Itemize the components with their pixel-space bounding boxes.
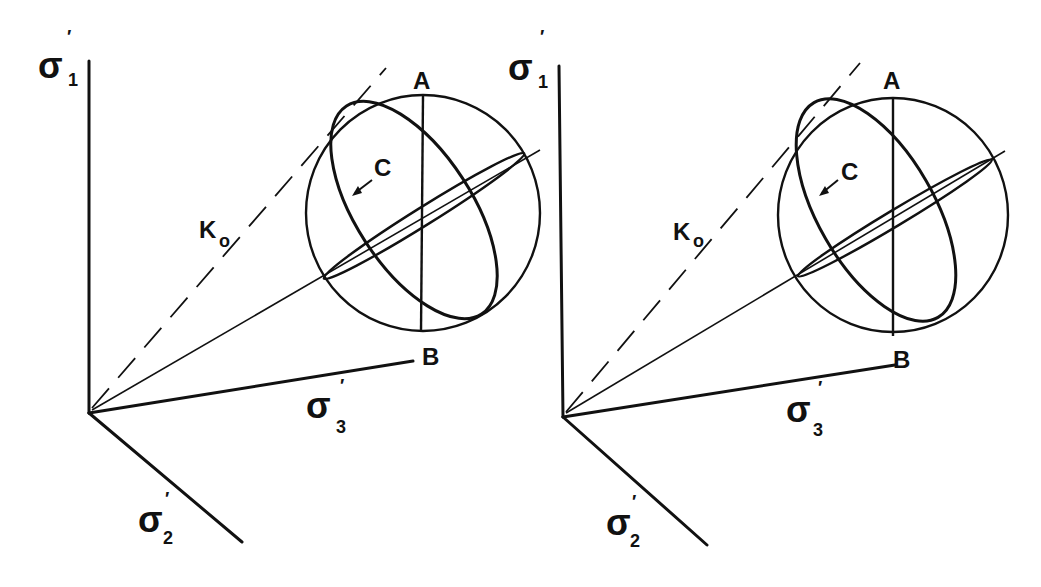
point-a-label-right: A bbox=[883, 67, 900, 94]
sigma3-sub-right: 3 bbox=[813, 420, 823, 440]
left-panel: σ 1 ′ σ 3 ′ σ 2 ′ K o A B C bbox=[38, 27, 540, 548]
right-panel: σ 1 ′ σ 3 ′ σ 2 ′ K o A B C bbox=[508, 27, 1008, 551]
sigma1-axis-right bbox=[559, 66, 563, 417]
sigma3-prime: ′ bbox=[340, 376, 344, 396]
yield-sphere-right bbox=[764, 74, 1008, 347]
point-a-label: A bbox=[413, 67, 430, 94]
sigma2-sub: 2 bbox=[163, 528, 173, 548]
sigma3-prime-right: ′ bbox=[818, 378, 822, 398]
sigma2-prime-right: ′ bbox=[632, 492, 636, 512]
sigma2-axis-right bbox=[563, 417, 707, 545]
sigma1-prime-right: ′ bbox=[540, 27, 544, 47]
sigma2-sub-right: 2 bbox=[630, 531, 640, 551]
ko-label-right: K bbox=[673, 218, 691, 245]
sigma1-sub: 1 bbox=[68, 70, 78, 90]
sigma3-label: σ bbox=[306, 385, 331, 426]
stereo-diagram: σ 1 ′ σ 3 ′ σ 2 ′ K o A B C σ 1 ′ σ bbox=[0, 0, 1041, 587]
sigma3-label-right: σ bbox=[786, 389, 811, 430]
point-c-label-right: C bbox=[841, 158, 858, 185]
sigma2-label: σ bbox=[138, 499, 163, 540]
sigma3-axis bbox=[89, 361, 413, 413]
point-b-label: B bbox=[422, 343, 439, 370]
sigma3-sub: 3 bbox=[336, 417, 346, 437]
sigma2-label-right: σ bbox=[606, 502, 631, 543]
ko-label: K bbox=[199, 216, 217, 243]
point-c-label: C bbox=[374, 154, 391, 181]
point-b-label-right: B bbox=[893, 346, 910, 373]
ko-sub: o bbox=[219, 231, 230, 251]
sigma1-sub-right: 1 bbox=[538, 72, 548, 92]
sigma2-prime: ′ bbox=[165, 489, 169, 509]
sigma3-axis-right bbox=[563, 365, 895, 417]
ko-line-right bbox=[566, 63, 860, 412]
space-diagonal-line bbox=[92, 150, 540, 410]
yield-sphere bbox=[298, 74, 540, 345]
sigma1-label-right: σ bbox=[508, 47, 533, 88]
ko-line bbox=[92, 68, 386, 408]
sigma1-label: σ bbox=[38, 45, 63, 86]
space-diagonal-line-right bbox=[566, 151, 1005, 413]
sigma1-prime: ′ bbox=[67, 27, 71, 47]
ko-sub-right: o bbox=[693, 231, 704, 251]
plane-ellipse-right bbox=[794, 153, 996, 283]
sigma2-axis bbox=[89, 413, 242, 542]
meridian-c-right bbox=[764, 74, 988, 347]
